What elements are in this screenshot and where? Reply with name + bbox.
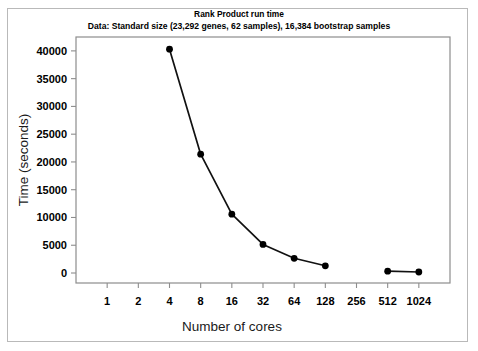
series-line	[388, 271, 419, 272]
figure-root: Rank Product run time Data: Standard siz…	[0, 0, 478, 351]
data-point-marker	[197, 151, 204, 158]
chart-title: Rank Product run time	[194, 9, 284, 19]
series-line	[170, 49, 326, 266]
run-time-line-chart: Rank Product run time Data: Standard siz…	[0, 0, 478, 351]
x-tick-label: 1	[104, 295, 110, 307]
x-tick-label: 2	[135, 295, 141, 307]
data-point-marker	[166, 46, 173, 53]
x-tick-label: 16	[226, 295, 238, 307]
data-point-marker	[415, 269, 422, 276]
data-point-marker	[228, 211, 235, 218]
y-tick-label: 30000	[36, 100, 67, 112]
x-tick-label: 128	[316, 295, 334, 307]
x-tick-label: 4	[166, 295, 173, 307]
x-tick-label: 32	[257, 295, 269, 307]
y-tick-label: 0	[61, 267, 67, 279]
y-tick-label: 10000	[36, 211, 67, 223]
y-axis-ticks: 0500010000150002000025000300003500040000	[36, 45, 76, 279]
y-tick-label: 5000	[43, 239, 67, 251]
x-tick-label: 8	[198, 295, 204, 307]
x-axis-ticks: 12481632641282565121024	[104, 283, 432, 307]
data-point-marker	[260, 241, 267, 248]
y-tick-label: 40000	[36, 45, 67, 57]
x-tick-label: 1024	[407, 295, 432, 307]
y-tick-label: 15000	[36, 184, 67, 196]
x-axis-title: Number of cores	[182, 319, 282, 334]
y-tick-label: 20000	[36, 156, 67, 168]
chart-subtitle: Data: Standard size (23,292 genes, 62 sa…	[88, 21, 391, 31]
x-tick-label: 64	[288, 295, 301, 307]
x-tick-label: 512	[378, 295, 396, 307]
data-series-layer	[166, 46, 422, 276]
y-tick-label: 25000	[36, 128, 67, 140]
data-point-marker	[291, 255, 298, 262]
x-tick-label: 256	[347, 295, 365, 307]
y-tick-label: 35000	[36, 73, 67, 85]
y-axis-title: Time (seconds)	[16, 114, 31, 207]
data-point-marker	[384, 268, 391, 275]
data-point-marker	[322, 262, 329, 269]
